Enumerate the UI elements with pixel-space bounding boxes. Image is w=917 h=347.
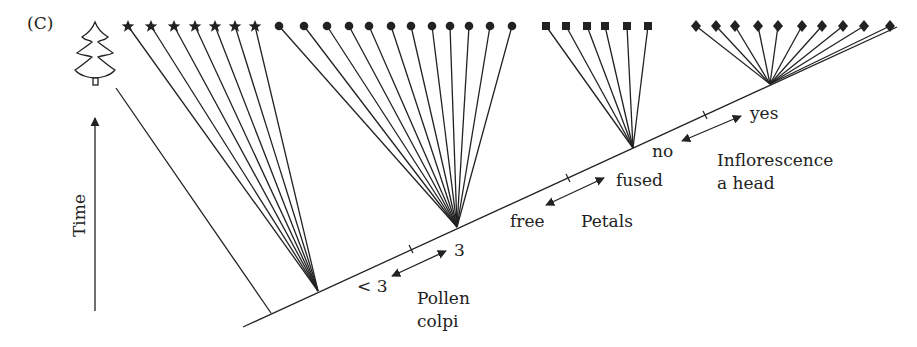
square-icon: [601, 22, 609, 30]
main-spine: [243, 27, 897, 327]
inflorescence-ancestral-state: no: [652, 142, 673, 161]
star-icon: [168, 20, 181, 32]
pollen-colpi-title-line2: colpi: [417, 312, 459, 331]
star-clade-branches: [128, 26, 318, 291]
star-icon: [122, 20, 135, 32]
circle-icon: [275, 22, 284, 31]
circle-icon: [323, 22, 332, 31]
outgroup-branch: [116, 88, 271, 313]
inflorescence-title-line1: Inflorescence: [717, 151, 833, 170]
square-icon: [562, 22, 570, 30]
time-axis-label: Time: [70, 194, 89, 237]
circle-icon: [428, 22, 437, 31]
circle-icon: [465, 22, 474, 31]
square-icon: [583, 22, 591, 30]
circle-icon: [446, 22, 455, 31]
circle-clade-branches: [279, 26, 512, 227]
circle-icon: [365, 22, 374, 31]
pollen-colpi-title-line1: Pollen: [417, 289, 470, 308]
circle-icon: [407, 22, 416, 31]
diamond-icon: [797, 20, 807, 32]
circle-icon: [508, 22, 517, 31]
diamond-icon: [838, 20, 848, 32]
panel-label: (C): [27, 14, 53, 33]
star-icon: [249, 20, 262, 32]
petals-derived-state: fused: [616, 171, 663, 190]
square-icon: [623, 22, 631, 30]
diamond-icon: [859, 20, 869, 32]
circle-icon: [387, 22, 396, 31]
square-icon: [542, 22, 550, 30]
petals-arrow: [546, 178, 604, 205]
inflorescence-title-line2: a head: [717, 174, 775, 193]
star-icon: [189, 20, 202, 32]
diamond-icon: [885, 20, 895, 32]
pollen-derived-state: 3: [454, 241, 465, 260]
phylogeny-diagram: (C) Time < 3 3 Pollen colpi free fused P…: [0, 0, 917, 347]
star-icon: [209, 20, 222, 32]
star-icon: [229, 20, 242, 32]
diamond-icon: [753, 20, 763, 32]
inflorescence-arrow: [682, 116, 741, 141]
diamond-icon: [730, 20, 740, 32]
circle-icon: [345, 22, 354, 31]
star-icon: [145, 20, 158, 32]
square-markers: [542, 22, 652, 30]
inflorescence-derived-state: yes: [750, 104, 778, 123]
conifer-tree-icon: [75, 22, 115, 85]
petals-title: Petals: [581, 212, 633, 231]
diamond-icon: [691, 20, 701, 32]
circle-icon: [486, 22, 495, 31]
square-clade-branches: [546, 26, 648, 148]
star-markers: [122, 20, 262, 32]
petals-ancestral-state: free: [510, 212, 545, 231]
circle-icon: [300, 22, 309, 31]
diamond-icon: [773, 20, 783, 32]
diamond-markers: [691, 20, 895, 32]
pollen-ancestral-state: < 3: [357, 277, 387, 296]
circle-markers: [275, 22, 517, 31]
square-icon: [644, 22, 652, 30]
